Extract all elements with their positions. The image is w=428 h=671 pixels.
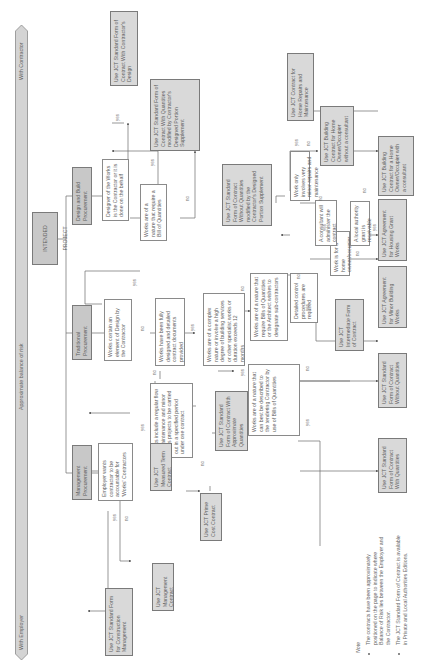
procurement-flowchart: With Employer Approximate balance of ris…: [0, 0, 428, 671]
decision-element-of-design: Works contain an element of Design by th…: [104, 299, 132, 361]
decision-text: Works are of a nature that require Bills…: [253, 277, 279, 337]
edge-label-no: no: [240, 286, 245, 291]
edge-label-yes: yes: [150, 159, 155, 166]
outcome-approx-quantities: Use JCT Standard Form of Contract With A…: [215, 391, 248, 451]
outcome-text: Use JCT Intermediate Form of Contract: [338, 305, 357, 347]
outcome-without-quantities-cdps: Use JCT Standard Form of Contract Withou…: [222, 164, 272, 226]
edge-label-yes: yes: [305, 419, 310, 426]
decision-detailed-control: Detailed control procedures are required: [290, 273, 318, 323]
note-title: Note: [355, 533, 362, 653]
outcome-housing-grant: Use JCT Agreement for Housing Grant Work…: [378, 199, 407, 261]
decision-text: A local authority grant is receivable: [353, 205, 372, 242]
decision-employer-accountable: Employer wants contractor to be accounta…: [98, 443, 133, 501]
outcome-text: Use JCT Standard Form of Contract With C…: [113, 20, 132, 82]
decision-text: Works are of a nature that can best be d…: [251, 369, 277, 432]
procurement-label: Management Procurement: [75, 466, 88, 496]
edge-label-no: no: [200, 461, 205, 466]
outcome-contractors-design: Use JCT Standard Form of Contract With C…: [110, 11, 138, 86]
procurement-management: Management Procurement: [72, 445, 92, 500]
note-block: Note The contracts have been approximate…: [355, 533, 412, 653]
outcome-text: Use JCT Standard Form of Contract Withou…: [381, 361, 400, 404]
outcome-text: Use JCT Building Contract for Home Owner…: [323, 116, 349, 162]
outcome-text: Use JCT Standard Form of Contract With Q…: [381, 446, 400, 489]
edge-label-no: no: [296, 274, 301, 279]
decision-designer-contractor: Designer of the Works is the Contractor …: [102, 159, 129, 221]
decision-fully-designed: Works have been fully designed and detai…: [155, 298, 185, 366]
edge-label-yes: yes: [294, 139, 299, 146]
decision-boq-design-build: Works are of a nature that require a Bil…: [140, 184, 167, 241]
edge-label-yes: yes: [372, 224, 377, 231]
outcome-with-quantities-cdps: Use JCT Standard Form of Contract With Q…: [150, 79, 200, 151]
procurement-label: Traditional Procurement: [75, 326, 88, 356]
decision-text: Works have been fully designed and detai…: [158, 311, 184, 362]
outcome-text: Use JCT Management Contract: [155, 577, 174, 607]
decision-text: Detailed control procedures are required: [293, 283, 312, 319]
edge-label-no: no: [124, 516, 129, 521]
outcome-measured-term: Use JCT Measured Term Contract: [150, 443, 172, 491]
outcome-home-without-consultant: Use JCT Building Contract for Home Owner…: [320, 106, 354, 166]
outcome-text: Use JCT Prime Cost Contract: [203, 502, 216, 537]
outcome-text: Use JCT Standard Form of Contract With Q…: [153, 85, 185, 147]
outcome-intermediate: Use JCT Intermediate Form of Contract: [335, 299, 364, 351]
decision-text: A consultant will administer the contrac…: [318, 205, 337, 242]
decision-text: Works are of a complex nature or involve…: [206, 300, 245, 362]
outcome-prime-cost: Use JCT Prime Cost Contract: [200, 493, 222, 541]
edge-label-no: no: [355, 251, 360, 256]
note-item: The JCT Standard Form of Contract is ava…: [395, 533, 409, 645]
edge-label-no: no: [152, 370, 157, 375]
decision-text: Works are of a nature that require a Bil…: [143, 190, 162, 237]
edge-label-yes: yes: [305, 304, 310, 311]
decision-local-authority-grant: A local authority grant is receivable: [350, 201, 370, 246]
decision-text: Designer of the Works is the Contractor …: [105, 164, 124, 217]
outcome-text: Use JCT Standard Form of Contract With A…: [218, 396, 244, 447]
decision-complex-nature: Works are of a complex nature or involve…: [203, 293, 245, 366]
root-intended-project: INTENDED PROJECT: [32, 212, 58, 265]
edge-label-no: no: [305, 366, 310, 371]
edge-label-no: no: [318, 196, 323, 201]
note-item: The contracts have been approximately po…: [365, 533, 392, 645]
edge-label-yes: yes: [322, 224, 327, 231]
outcome-home-with-consultant: Use JCT Building Contract for a Home Own…: [378, 136, 414, 196]
decision-require-boq-architect: Works are of a nature that require Bills…: [250, 273, 288, 341]
decision-text: Employer wants contractor to be accounta…: [101, 452, 127, 497]
edge-label-yes: yes: [240, 369, 245, 376]
edge-label-no: no: [362, 188, 367, 193]
decision-described-bills: Works are of a nature that can best be d…: [248, 364, 300, 436]
decision-minor-repairs: Work only involves very minor repairs an…: [290, 151, 310, 201]
outcome-minor-building: Use JCT Agreement for Minor Building Wor…: [378, 266, 407, 328]
edge-label-no: no: [185, 196, 190, 201]
outcome-text: Use JCT Measured Term Contract: [153, 451, 172, 487]
edge-label-yes: yes: [140, 424, 145, 431]
outcome-text: Use JCT Contract for Home Repairs and Ma…: [290, 68, 309, 117]
edge-label-yes: yes: [190, 324, 195, 331]
outcome-without-quantities: Use JCT Standard Form of Contract Withou…: [378, 353, 407, 408]
edge-label-yes: yes: [115, 114, 120, 121]
outcome-with-quantities: Use JCT Standard Form of Contract With Q…: [378, 438, 407, 493]
outcome-text: Use JCT Agreement for Housing Grant Work…: [381, 210, 400, 257]
decision-text: Works contain an element of Design by th…: [107, 308, 126, 357]
outcome-construction-management: Use JCT Standard Form for Construction M…: [105, 588, 133, 656]
outcome-text: Use JCT Standard Form for Construction M…: [108, 596, 127, 652]
outcome-management-contract: Use JCT Management Contract: [152, 563, 174, 611]
edge-label-no: no: [306, 141, 311, 146]
root-label: INTENDED PROJECT: [42, 225, 68, 252]
edge-label-no: no: [140, 326, 145, 331]
procurement-traditional: Traditional Procurement: [72, 305, 92, 360]
outcome-home-repairs: Use JCT Contract for Home Repairs and Ma…: [287, 53, 314, 121]
outcome-text: Use JCT Building Contract for a Home Own…: [381, 144, 407, 192]
procurement-design-build: Design and Build Procurement: [72, 167, 92, 225]
edge-label-yes: yes: [112, 514, 117, 521]
procurement-label: Design and Build Procurement: [75, 182, 88, 221]
outcome-text: Use JCT Agreement for Minor Building Wor…: [381, 277, 400, 324]
outcome-text: Use JCT Standard Form of Contract Withou…: [225, 171, 264, 222]
edge-label-yes: yes: [132, 279, 137, 286]
